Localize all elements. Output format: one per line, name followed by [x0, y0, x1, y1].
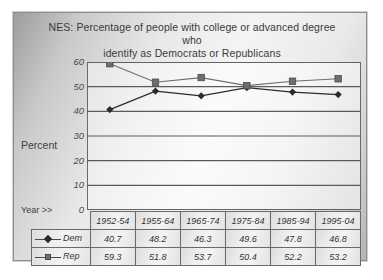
legend-label-Dem: Dem	[63, 233, 82, 243]
legend-label-Rep: Rep	[63, 251, 80, 261]
table-header-1995-04: 1995-04	[315, 212, 360, 230]
marker-Dem-0	[106, 106, 113, 113]
legend-cell-Rep: Rep	[32, 248, 91, 266]
y-tick-label-60: 60	[54, 56, 84, 67]
marker-Dem-5	[335, 91, 342, 98]
table-header-1985-94: 1985-94	[270, 212, 315, 230]
data-table: 1952-541955-641965-741975-841985-941995-…	[31, 211, 361, 266]
series-line-Dem	[110, 88, 338, 110]
series-line-Rep	[110, 64, 338, 86]
y-tick-label-20: 20	[54, 155, 84, 166]
table-cell-Rep-1985-94: 52.2	[270, 248, 315, 266]
chart-object-frame[interactable]: NES: Percentage of people with college o…	[13, 12, 367, 261]
table-header-1975-84: 1975-84	[225, 212, 270, 230]
y-tick-label-10: 10	[54, 179, 84, 190]
plot-svg	[87, 62, 361, 210]
marker-Dem-1	[152, 88, 159, 95]
table-header-1952-54: 1952-54	[90, 212, 135, 230]
table-corner-cell	[32, 212, 91, 230]
marker-Rep-4	[289, 78, 295, 84]
marker-Rep-0	[107, 62, 113, 67]
table-cell-Dem-1985-94: 47.8	[270, 230, 315, 248]
marker-Rep-2	[198, 74, 204, 80]
table-cell-Dem-1952-54: 40.7	[90, 230, 135, 248]
table-header-row: 1952-541955-641965-741975-841985-941995-…	[32, 212, 361, 230]
y-axis-tick-labels: 6050403020100	[52, 62, 84, 210]
table-cell-Dem-1995-04: 46.8	[315, 230, 360, 248]
table-cell-Dem-1965-74: 46.3	[180, 230, 225, 248]
table-cell-Rep-1955-64: 51.8	[135, 248, 180, 266]
table-cell-Rep-1965-74: 53.7	[180, 248, 225, 266]
y-tick-label-50: 50	[54, 81, 84, 92]
table-body: Dem40.748.246.349.647.846.8Rep59.351.853…	[32, 230, 361, 266]
marker-Rep-5	[335, 76, 341, 82]
table-row: Rep59.351.853.750.452.253.2	[32, 248, 361, 266]
table-cell-Rep-1952-54: 59.3	[90, 248, 135, 266]
marker-Rep-3	[244, 82, 250, 88]
table-cell-Dem-1955-64: 48.2	[135, 230, 180, 248]
marker-Rep-1	[152, 79, 158, 85]
chart-title: NES: Percentage of people with college o…	[40, 21, 344, 60]
diamond-marker-icon	[35, 235, 61, 244]
chart-title-line-2: identify as Democrats or Republicans	[40, 47, 344, 60]
marker-Dem-4	[289, 88, 296, 95]
legend-cell-Dem: Dem	[32, 230, 91, 248]
chart-screenshot: NES: Percentage of people with college o…	[0, 0, 383, 280]
table-cell-Rep-1975-84: 50.4	[225, 248, 270, 266]
square-marker-icon	[35, 253, 61, 262]
table-cell-Rep-1995-04: 53.2	[315, 248, 360, 266]
y-tick-label-40: 40	[54, 105, 84, 116]
table-row: Dem40.748.246.349.647.846.8	[32, 230, 361, 248]
marker-Dem-2	[198, 92, 205, 99]
table-header-1955-64: 1955-64	[135, 212, 180, 230]
plot-wrapper	[87, 62, 361, 210]
table-cell-Dem-1975-84: 49.6	[225, 230, 270, 248]
table-header-1965-74: 1965-74	[180, 212, 225, 230]
y-tick-label-30: 30	[54, 130, 84, 141]
chart-title-line-1: NES: Percentage of people with college o…	[40, 21, 344, 47]
